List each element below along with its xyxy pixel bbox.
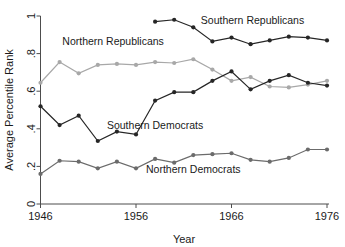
y-axis: 0.2.4.6.81 bbox=[25, 13, 41, 207]
average-percentile-rank-line-chart: 0.2.4.6.81 1946195619661976 Southern Rep… bbox=[0, 0, 345, 247]
data-point bbox=[38, 81, 42, 85]
data-point bbox=[210, 152, 214, 156]
y-axis-title: Average Percentile Rank bbox=[3, 49, 15, 171]
x-tick-label: 1976 bbox=[315, 210, 339, 222]
data-point bbox=[58, 60, 62, 64]
data-point bbox=[191, 90, 195, 94]
data-point bbox=[249, 42, 253, 46]
y-tick-label: .2 bbox=[25, 162, 37, 171]
y-tick-label: 0 bbox=[25, 201, 37, 207]
data-point bbox=[153, 99, 157, 103]
data-point bbox=[77, 160, 81, 164]
data-point bbox=[287, 85, 291, 89]
data-point bbox=[134, 132, 138, 136]
data-point bbox=[287, 35, 291, 39]
y-tick-label: .4 bbox=[25, 124, 37, 133]
data-point bbox=[191, 153, 195, 157]
data-point bbox=[191, 25, 195, 29]
series-southern-democrats bbox=[38, 69, 329, 143]
data-point bbox=[229, 36, 233, 40]
series-label-southern-republicans: Southern Republicans bbox=[201, 14, 304, 26]
data-point bbox=[172, 90, 176, 94]
data-point bbox=[268, 38, 272, 42]
data-point bbox=[172, 61, 176, 65]
x-tick-label: 1956 bbox=[124, 210, 148, 222]
chart-container: 0.2.4.6.81 1946195619661976 Southern Rep… bbox=[0, 0, 345, 247]
data-point bbox=[306, 81, 310, 85]
data-point bbox=[191, 57, 195, 61]
data-point bbox=[96, 139, 100, 143]
series-annotations: Southern RepublicansNorthern Republicans… bbox=[62, 14, 304, 175]
data-point bbox=[153, 20, 157, 24]
data-point bbox=[58, 123, 62, 127]
data-point bbox=[325, 83, 329, 87]
data-point bbox=[96, 63, 100, 67]
data-point bbox=[210, 39, 214, 43]
data-point bbox=[153, 157, 157, 161]
series-label-southern-democrats: Southern Democrats bbox=[107, 119, 203, 131]
data-point bbox=[287, 156, 291, 160]
data-point bbox=[153, 60, 157, 64]
data-point bbox=[229, 79, 233, 83]
data-point bbox=[249, 75, 253, 79]
data-point bbox=[268, 160, 272, 164]
data-point bbox=[172, 18, 176, 22]
data-point bbox=[325, 147, 329, 151]
data-point bbox=[229, 151, 233, 155]
data-point bbox=[287, 73, 291, 77]
y-tick-label: .8 bbox=[25, 49, 37, 58]
data-point bbox=[96, 166, 100, 170]
data-point bbox=[249, 87, 253, 91]
data-point bbox=[268, 79, 272, 83]
x-tick-label: 1946 bbox=[28, 210, 52, 222]
x-axis-title: Year bbox=[173, 233, 196, 245]
data-point bbox=[38, 104, 42, 108]
x-axis: 1946195619661976 bbox=[28, 204, 339, 222]
data-point bbox=[306, 36, 310, 40]
data-point bbox=[249, 158, 253, 162]
data-point bbox=[134, 166, 138, 170]
y-tick-label: .6 bbox=[25, 87, 37, 96]
series-northern-republicans bbox=[38, 57, 329, 89]
data-point bbox=[38, 172, 42, 176]
data-point bbox=[268, 84, 272, 88]
data-point bbox=[229, 69, 233, 73]
data-point bbox=[115, 62, 119, 66]
data-point bbox=[325, 79, 329, 83]
data-point bbox=[306, 147, 310, 151]
data-point bbox=[77, 71, 81, 75]
x-tick-label: 1966 bbox=[219, 210, 243, 222]
data-point bbox=[210, 79, 214, 83]
data-point bbox=[210, 67, 214, 71]
data-point bbox=[115, 160, 119, 164]
y-tick-label: 1 bbox=[25, 13, 37, 19]
data-point bbox=[77, 114, 81, 118]
data-point bbox=[58, 159, 62, 163]
data-point bbox=[325, 38, 329, 42]
series-label-northern-democrats: Northern Democrats bbox=[146, 163, 241, 175]
series-label-northern-republicans: Northern Republicans bbox=[62, 35, 164, 47]
data-point bbox=[134, 63, 138, 67]
